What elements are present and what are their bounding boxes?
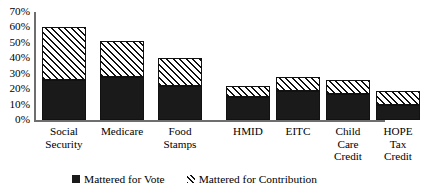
x-label-line: Stamps	[153, 138, 207, 151]
x-label-line: Medicare	[95, 125, 149, 138]
x-label-eitc: EITC	[271, 125, 325, 138]
legend-entry-vote: Mattered for Vote	[72, 173, 165, 185]
bar-segment-contribution	[326, 80, 370, 94]
y-tick-10: 10%	[0, 99, 30, 110]
bar-medicare	[100, 41, 144, 120]
x-label-line: Social	[37, 125, 91, 138]
bar-segment-contribution	[226, 86, 270, 97]
bar-segment-vote	[226, 97, 270, 120]
x-label-social-security: SocialSecurity	[37, 125, 91, 150]
x-label-line: Care	[321, 138, 375, 151]
bar-food-stamps	[158, 58, 202, 120]
x-label-line: HOPE	[371, 125, 424, 138]
x-label-food-stamps: FoodStamps	[153, 125, 207, 150]
bar-eitc	[276, 77, 320, 120]
bar-segment-contribution	[276, 77, 320, 91]
x-label-line: Child	[321, 125, 375, 138]
legend-label-contribution: Mattered for Contribution	[199, 173, 317, 185]
chart-legend: Mattered for Vote Mattered for Contribut…	[0, 170, 389, 188]
bar-segment-contribution	[42, 27, 86, 79]
x-label-medicare: Medicare	[95, 125, 149, 138]
y-tick-40: 40%	[0, 52, 30, 63]
solid-swatch-icon	[72, 175, 80, 183]
y-axis-tick-labels: 70% 60% 50% 40% 30% 20% 10% 0%	[0, 0, 32, 191]
y-tick-60: 60%	[0, 21, 30, 32]
legend-entry-contribution: Mattered for Contribution	[187, 173, 317, 185]
bar-segment-vote	[276, 91, 320, 120]
legend-label-vote: Mattered for Vote	[84, 173, 165, 185]
bar-segment-vote	[100, 77, 144, 120]
bar-segment-contribution	[158, 58, 202, 86]
bar-hope-tax-credit	[376, 91, 420, 120]
bar-child-care-credit	[326, 80, 370, 120]
x-label-line: Tax	[371, 138, 424, 151]
x-axis-line	[34, 120, 385, 122]
x-label-line: EITC	[271, 125, 325, 138]
bar-segment-vote	[376, 105, 420, 120]
y-tick-50: 50%	[0, 37, 30, 48]
x-label-hmid: HMID	[221, 125, 275, 138]
x-label-hope-tax-credit: HOPETaxCredit	[371, 125, 424, 163]
x-label-child-care-credit: ChildCareCredit	[321, 125, 375, 163]
y-tick-20: 20%	[0, 83, 30, 94]
bar-segment-vote	[42, 80, 86, 120]
x-label-line: Credit	[371, 150, 424, 163]
x-label-line: Security	[37, 138, 91, 151]
y-tick-30: 30%	[0, 68, 30, 79]
x-label-line: Food	[153, 125, 207, 138]
bar-segment-contribution	[100, 41, 144, 76]
hatch-swatch-icon	[187, 175, 195, 183]
bar-hmid	[226, 86, 270, 120]
x-label-line: HMID	[221, 125, 275, 138]
y-tick-0: 0%	[0, 114, 30, 125]
x-label-line: Credit	[321, 150, 375, 163]
bars-layer	[34, 12, 385, 120]
bar-segment-vote	[326, 94, 370, 120]
x-axis-category-labels: SocialSecurityMedicareFoodStampsHMIDEITC…	[34, 125, 385, 171]
bar-segment-vote	[158, 86, 202, 120]
bar-social-security	[42, 27, 86, 120]
y-tick-70: 70%	[0, 6, 30, 17]
bar-segment-contribution	[376, 91, 420, 105]
